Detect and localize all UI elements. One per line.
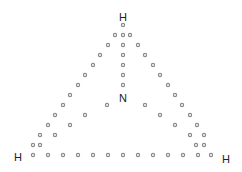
nh3-dot-diagram: H N H H <box>0 0 242 172</box>
electron-dot <box>91 153 94 156</box>
electron-dot <box>121 43 124 46</box>
electron-dot <box>209 153 212 156</box>
electron-dot <box>173 93 176 96</box>
electron-dot <box>128 33 131 36</box>
electron-dot <box>196 153 199 156</box>
electron-dot <box>105 103 108 106</box>
electron-dot <box>98 53 101 56</box>
electron-dot <box>38 133 41 136</box>
electron-dot <box>121 23 124 26</box>
electron-dot <box>106 43 109 46</box>
electron-dot <box>76 153 79 156</box>
electron-dot <box>61 103 64 106</box>
electron-dot <box>136 153 139 156</box>
electron-dot <box>68 123 71 126</box>
electron-dot <box>31 153 34 156</box>
atom-n-center: N <box>119 92 127 104</box>
electron-dot <box>121 73 124 76</box>
atom-h-left: H <box>14 151 22 163</box>
electron-dot <box>188 133 191 136</box>
electron-dot <box>46 153 49 156</box>
electron-dot <box>158 113 161 116</box>
atom-h-top: H <box>119 11 127 23</box>
electron-dot <box>121 83 124 86</box>
electron-dot <box>83 73 86 76</box>
electron-dot <box>121 33 124 36</box>
electron-dot <box>151 63 154 66</box>
electron-dot <box>121 63 124 66</box>
electron-dot <box>91 63 94 66</box>
electron-dot <box>53 113 56 116</box>
electron-dot <box>38 143 41 146</box>
electron-dot <box>180 103 183 106</box>
electron-dot <box>46 123 49 126</box>
electron-dots <box>31 23 212 156</box>
electron-dot <box>195 123 198 126</box>
electron-dot <box>106 153 109 156</box>
electron-dot <box>83 113 86 116</box>
electron-dot <box>76 83 79 86</box>
electron-dot <box>143 103 146 106</box>
electron-dot <box>202 133 205 136</box>
electron-dot <box>136 43 139 46</box>
electron-dot <box>68 93 71 96</box>
electron-dot <box>113 33 116 36</box>
electron-dot <box>121 53 124 56</box>
electron-dot <box>151 153 154 156</box>
electron-dot <box>61 153 64 156</box>
electron-dot <box>158 73 161 76</box>
electron-dot <box>188 113 191 116</box>
electron-dot <box>202 143 205 146</box>
electron-dot <box>166 83 169 86</box>
electron-dot <box>173 123 176 126</box>
electron-dot <box>53 133 56 136</box>
electron-dot <box>121 153 124 156</box>
electron-dot <box>143 53 146 56</box>
electron-dot <box>194 143 197 146</box>
atom-h-right: H <box>222 153 230 165</box>
electron-dot <box>166 153 169 156</box>
electron-dot <box>31 143 34 146</box>
electron-dot <box>181 153 184 156</box>
